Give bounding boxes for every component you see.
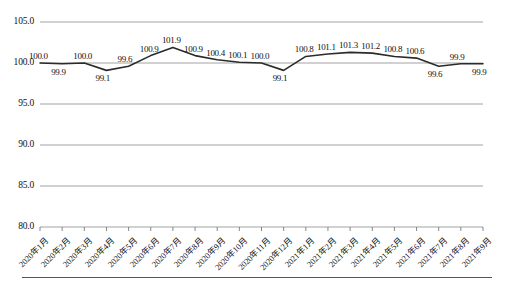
data-point-label: 99.9: [472, 67, 487, 77]
data-point-label: 99.9: [51, 67, 66, 77]
data-point-label: 100.8: [383, 44, 402, 54]
data-point-label: 100.9: [140, 44, 159, 54]
data-point-label: 100.0: [73, 51, 92, 61]
data-point-label: 99.1: [95, 73, 110, 83]
data-point-label: 100.1: [228, 50, 247, 60]
data-point-label: 101.2: [361, 41, 380, 51]
data-point-label: 100.0: [251, 51, 270, 61]
data-point-label: 101.3: [339, 40, 358, 50]
x-axis-ticks: [40, 227, 483, 231]
data-point-label: 101.1: [317, 42, 336, 52]
data-point-label: 100.9: [184, 44, 203, 54]
data-point-label: 100.0: [29, 51, 48, 61]
bottom-divider: [22, 277, 492, 278]
data-point-label: 99.6: [428, 69, 443, 79]
data-point-label: 100.6: [406, 46, 425, 56]
line-chart: 80.085.090.095.0100.0105.0 2020年1月2020年2…: [0, 0, 509, 289]
data-point-label: 99.9: [450, 52, 465, 62]
data-point-label: 100.4: [206, 48, 225, 58]
data-point-label: 101.9: [162, 35, 181, 45]
data-point-label: 99.6: [118, 54, 133, 64]
data-point-label: 99.1: [273, 73, 288, 83]
data-point-label: 100.8: [295, 44, 314, 54]
